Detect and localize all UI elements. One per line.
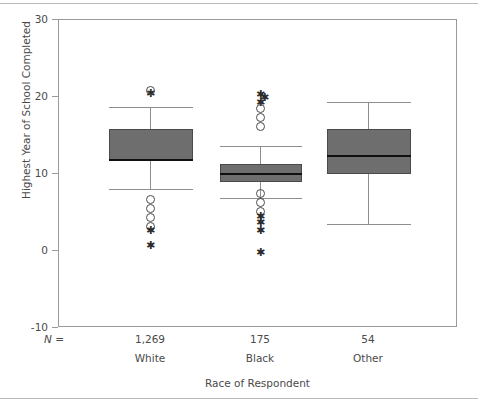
group-label-other: Other (323, 352, 413, 364)
top-divider-rule (0, 3, 478, 4)
median-line-white (109, 159, 193, 161)
outlier-circle-black (256, 104, 265, 113)
outlier-star-black: ✱ (256, 226, 265, 235)
outlier-circle-black (256, 198, 265, 207)
outlier-star-black: ✱ (256, 248, 265, 257)
y-axis-title: Highest Year of School Completed (20, 0, 32, 220)
outlier-circle-white (146, 86, 155, 95)
plot-area: ✱ ✱ ✱ ✱ ✱ ✱ ✱ ✱ ✱ ✱ (58, 19, 457, 327)
ytick-mark-neg10 (52, 327, 58, 328)
group-label-black: Black (215, 352, 305, 364)
outlier-circle-black (256, 113, 265, 122)
whisker-cap-upper-white (109, 107, 193, 108)
group-count-black: 175 (215, 333, 305, 345)
box-other (327, 129, 411, 174)
median-line-other (327, 155, 411, 157)
n-equals-label: N = (44, 333, 64, 345)
whisker-cap-lower-white (109, 189, 193, 190)
whisker-upper-white (150, 107, 151, 129)
outlier-circle-black (256, 122, 265, 131)
outlier-circle-white (146, 195, 155, 204)
x-axis-title: Race of Respondent (58, 377, 457, 389)
box-white (109, 129, 193, 161)
outlier-circle-white (146, 204, 155, 213)
whisker-cap-upper-black (220, 146, 302, 147)
whisker-lower-other (368, 174, 369, 224)
outlier-star-white: ✱ (146, 241, 155, 250)
group-count-other: 54 (323, 333, 413, 345)
ytick-label-0: 0 (14, 245, 48, 255)
whisker-cap-lower-other (327, 224, 411, 225)
whisker-lower-white (150, 161, 151, 189)
group-label-white: White (105, 352, 195, 364)
median-line-black (220, 173, 302, 175)
ytick-label-neg10: -10 (14, 322, 48, 332)
boxplot-figure: 30 20 10 0 -10 Highest Year of School Co… (0, 0, 478, 403)
whisker-upper-black (260, 146, 261, 164)
outlier-circle-black (256, 189, 265, 198)
bottom-divider-rule (0, 398, 478, 399)
whisker-upper-other (368, 102, 369, 129)
outlier-star-white: ✱ (146, 226, 155, 235)
group-count-white: 1,269 (105, 333, 195, 345)
outlier-circle-white (146, 213, 155, 222)
whisker-cap-upper-other (327, 102, 411, 103)
